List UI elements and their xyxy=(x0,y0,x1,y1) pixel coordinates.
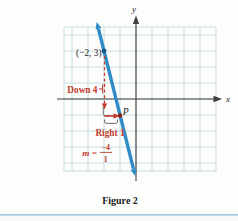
slope-graph: x y (−2, 3) Down 4 P Right 1 m = −4 1 Fi… xyxy=(0,0,238,221)
slope-lhs: m = xyxy=(82,148,97,158)
point-neg2-3 xyxy=(102,49,107,54)
point-neg2-3-label: (−2, 3) xyxy=(76,48,101,59)
y-axis-arrow xyxy=(133,16,139,25)
graphed-line-arrow-top xyxy=(96,22,102,30)
point-p xyxy=(118,113,122,117)
down-4-bracket xyxy=(99,85,103,94)
slope-numerator: −4 xyxy=(102,143,110,152)
y-axis-label: y xyxy=(131,4,136,14)
right-1-label: Right 1 xyxy=(95,128,125,138)
slope-denominator: 1 xyxy=(104,155,108,164)
x-axis-label: x xyxy=(225,94,230,104)
point-p-label: P xyxy=(122,106,129,117)
below-separator-area xyxy=(0,216,238,221)
bottom-separator-line xyxy=(0,214,238,216)
down-4-arrowhead xyxy=(102,104,107,110)
textbook-figure: x y (−2, 3) Down 4 P Right 1 m = −4 1 Fi… xyxy=(0,0,238,221)
figure-caption: Figure 2 xyxy=(102,195,138,206)
x-axis-arrow xyxy=(214,96,223,102)
right-1-bracket xyxy=(105,120,118,124)
down-4-label: Down 4 xyxy=(67,85,98,95)
